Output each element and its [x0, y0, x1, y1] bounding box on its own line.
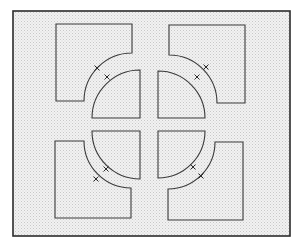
- puzzle-diagram: [0, 0, 301, 243]
